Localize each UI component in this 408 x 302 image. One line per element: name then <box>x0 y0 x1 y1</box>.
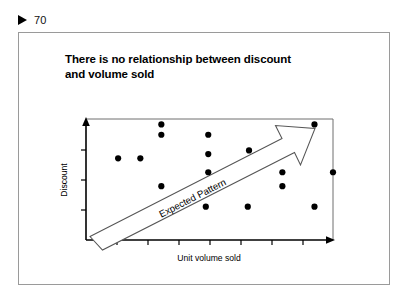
data-point <box>137 155 143 161</box>
data-point <box>205 151 211 157</box>
data-point <box>158 132 164 138</box>
data-point <box>246 147 252 153</box>
page-marker: 70 <box>18 13 47 27</box>
data-point <box>330 169 336 175</box>
data-point <box>205 169 211 175</box>
page-number: 70 <box>34 15 47 26</box>
play-triangle-icon <box>18 15 27 25</box>
data-point <box>279 183 285 189</box>
data-point <box>279 169 285 175</box>
data-point <box>115 155 121 161</box>
x-axis-label: Unit volume sold <box>177 253 241 263</box>
slide-frame: There is no relationship between discoun… <box>18 32 390 285</box>
slide-page: 70 There is no relationship between disc… <box>0 0 408 302</box>
data-point <box>158 121 164 127</box>
data-point <box>311 121 317 127</box>
data-point <box>203 204 209 210</box>
data-point <box>158 183 164 189</box>
y-axis-label: Discount <box>59 163 69 197</box>
y-axis <box>81 117 90 240</box>
data-point <box>245 204 251 210</box>
data-point <box>205 132 211 138</box>
scatter-chart: Discount Unit volume sold Expected Patte… <box>19 33 391 286</box>
data-point <box>311 204 317 210</box>
